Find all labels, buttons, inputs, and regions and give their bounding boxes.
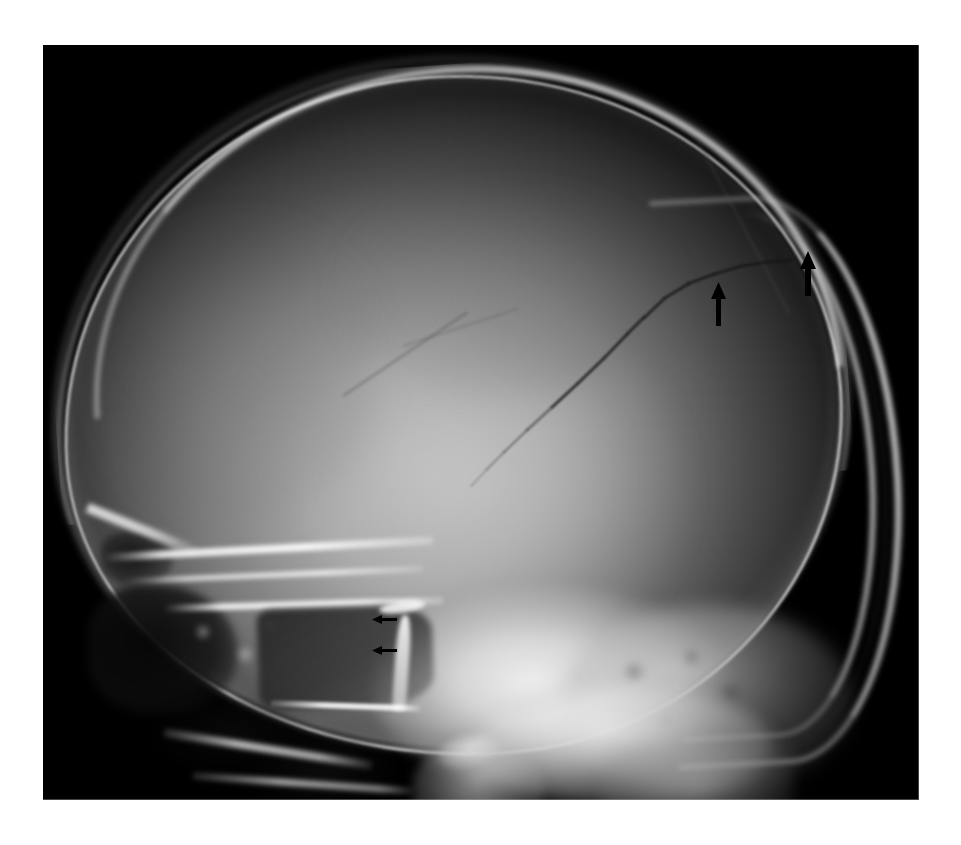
page-root — [0, 0, 961, 845]
radiograph-panel — [43, 45, 919, 800]
cervical-spine — [603, 745, 793, 800]
radiograph-image — [43, 45, 919, 800]
mandibular-ramus — [413, 745, 543, 800]
